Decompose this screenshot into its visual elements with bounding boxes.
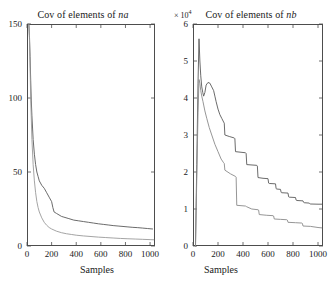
panel-cov-nb: × 104 Cov of elements of nb 6 5 4 3 2 1 … xyxy=(166,0,332,297)
panel-cov-na: Cov of elements of na 150 100 50 0 0 200… xyxy=(0,0,166,297)
xaxis-label-nb: Samples xyxy=(161,264,281,275)
series-cov-na-1 xyxy=(29,24,154,240)
plot-svg-nb xyxy=(166,0,332,297)
series-cov-na-0 xyxy=(29,24,153,229)
series-cov-nb-1 xyxy=(196,80,322,247)
xaxis-label-na: Samples xyxy=(37,264,157,275)
